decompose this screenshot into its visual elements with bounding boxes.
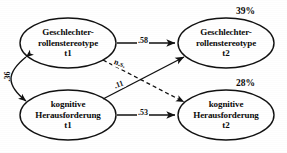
variance-label-gs-t2: 39% [236, 6, 255, 16]
node-ellipse-kh-t2 [178, 90, 274, 140]
edge-gs-t1-corr-kh-t1 [11, 57, 26, 101]
node-ellipse-gs-t2 [178, 18, 274, 68]
path-diagram: Geschlechter- rollenstereotype t1 Geschl… [0, 0, 287, 153]
variance-label-kh-t2: 28% [236, 78, 255, 88]
node-ellipse-gs-t1 [20, 18, 116, 68]
edge-label-kh-t1-to-kh-t2: .53 [137, 108, 149, 117]
node-ellipse-kh-t1 [20, 90, 116, 140]
edge-label-gs-t1-to-gs-t2: .58 [137, 36, 149, 45]
edge-label-gs-t1-corr-kh-t1: .36 [3, 71, 12, 83]
diagram-edges-layer [0, 0, 287, 153]
